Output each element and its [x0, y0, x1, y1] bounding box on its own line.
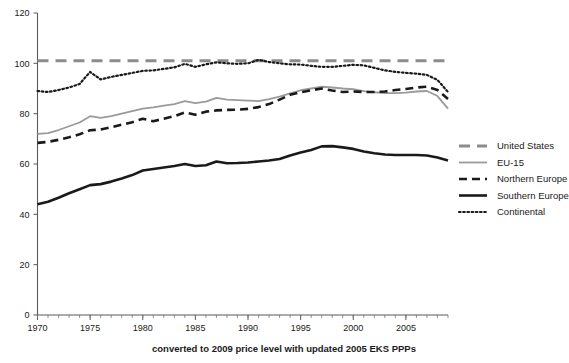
line-chart: 020406080100120 197019751980198519901995…	[0, 0, 569, 363]
x-tick-label: 1990	[238, 323, 258, 333]
chart-caption: converted to 2009 price level with updat…	[152, 343, 416, 354]
legend-label-eu-15: EU-15	[497, 157, 524, 168]
y-tick-label: 120	[14, 8, 29, 18]
series-line-northern-europe	[38, 87, 449, 143]
x-tick-label: 2005	[396, 323, 416, 333]
y-tick-label: 80	[19, 109, 29, 119]
y-tick-label: 100	[14, 59, 29, 69]
chart-legend: United StatesEU-15Northern EuropeSouther…	[459, 140, 569, 217]
y-tick-label: 60	[19, 159, 29, 169]
legend-label-united-states: United States	[497, 140, 554, 151]
y-tick-label: 20	[19, 260, 29, 270]
x-axis-ticks: 19701975198019851990199520002005	[27, 315, 415, 333]
x-tick-label: 1970	[27, 323, 47, 333]
data-series-group	[38, 60, 449, 204]
x-tick-label: 1995	[291, 323, 311, 333]
legend-label-southern-europe: Southern Europe	[497, 190, 569, 201]
x-tick-label: 1980	[133, 323, 153, 333]
x-tick-label: 1975	[80, 323, 100, 333]
legend-label-northern-europe: Northern Europe	[497, 173, 567, 184]
legend-label-continental: Continental	[497, 206, 545, 217]
series-line-southern-europe	[38, 146, 449, 204]
y-tick-label: 40	[19, 210, 29, 220]
series-line-continental	[38, 60, 449, 92]
y-axis-ticks: 020406080100120	[14, 8, 37, 320]
y-tick-label: 0	[24, 310, 29, 320]
chart-container: 020406080100120 197019751980198519901995…	[0, 0, 569, 363]
x-tick-label: 1985	[185, 323, 205, 333]
x-tick-label: 2000	[343, 323, 363, 333]
